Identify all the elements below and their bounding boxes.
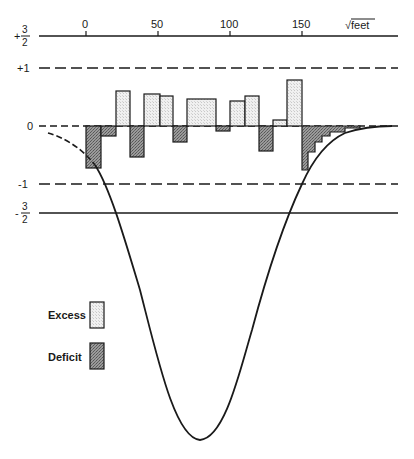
y-label-plus-one: +1 — [17, 62, 30, 74]
bar-deficit-tail — [302, 126, 360, 170]
svg-text:3: 3 — [22, 24, 28, 35]
svg-text:3: 3 — [22, 201, 28, 212]
y-label-plus-three-halves: + 3 2 — [14, 24, 30, 48]
x-tick-150: 150 — [292, 18, 310, 30]
x-tick-0: 0 — [82, 18, 88, 30]
bars — [86, 80, 360, 170]
legend-excess-swatch — [90, 302, 104, 328]
legend-deficit-label: Deficit — [48, 351, 82, 363]
top-axis: 0 50 100 150 √feet — [39, 18, 398, 36]
y-label-zero: 0 — [27, 120, 33, 132]
bar-deficit — [86, 126, 101, 168]
svg-text:2: 2 — [22, 214, 28, 225]
bar-deficit — [216, 126, 230, 131]
bar-deficit — [101, 126, 116, 136]
svg-text:2: 2 — [22, 37, 28, 48]
bar-deficit — [259, 126, 273, 151]
svg-text:-: - — [15, 207, 19, 219]
bar-deficit — [173, 126, 187, 142]
bar-excess — [273, 120, 287, 126]
bar-excess — [187, 99, 216, 126]
bar-excess — [245, 96, 259, 126]
legend: Excess Deficit — [48, 302, 104, 369]
y-label-minus-one: -1 — [18, 178, 28, 190]
bar-deficit — [130, 126, 144, 157]
bar-excess — [144, 94, 160, 126]
x-tick-50: 50 — [151, 18, 163, 30]
legend-excess-label: Excess — [48, 309, 86, 321]
y-label-minus-three-halves: - 3 2 — [15, 201, 30, 225]
x-unit-label: √feet — [345, 19, 369, 31]
bar-excess — [287, 80, 302, 126]
chart-canvas: + 3 2 +1 0 -1 - 3 2 0 50 100 150 √feet — [0, 0, 414, 459]
svg-text:+: + — [14, 30, 20, 42]
bar-excess — [230, 101, 245, 126]
x-tick-100: 100 — [220, 18, 238, 30]
legend-deficit-swatch — [90, 343, 104, 369]
curve-solid — [95, 126, 392, 440]
bar-excess — [160, 96, 173, 126]
bar-excess — [116, 91, 130, 126]
